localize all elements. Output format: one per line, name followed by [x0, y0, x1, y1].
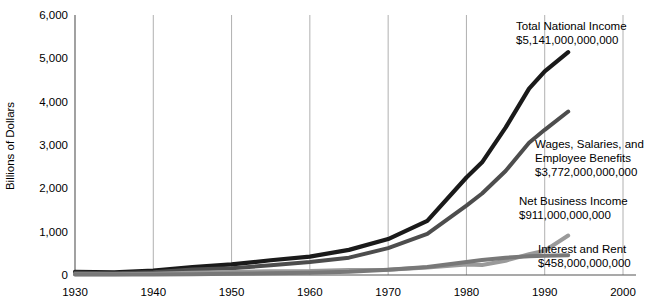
y-tick-label-1000: 1,000: [39, 226, 68, 238]
y-tick-label-3000: 3,000: [39, 139, 68, 151]
y-tick-label-4000: 4,000: [39, 96, 68, 108]
annotation-2-line-0: Net Business Income: [519, 195, 628, 207]
x-axis-tick-labels: 19301940195019601970198019902000: [62, 286, 636, 298]
y-axis-tick-labels: 01,0002,0003,0004,0005,0006,000: [39, 9, 68, 281]
annotation-0-line-1: $5,141,000,000,000: [516, 34, 618, 46]
y-tick-label-0: 0: [62, 269, 68, 281]
y-tick-label-6000: 6,000: [39, 9, 68, 21]
annotation-0-line-0: Total National Income: [516, 20, 627, 32]
annotation-3-line-0: Interest and Rent: [538, 243, 627, 255]
series-line-1: [75, 112, 568, 274]
annotation-2-line-1: $911,000,000,000: [519, 209, 611, 221]
chart-canvas: 01,0002,0003,0004,0005,0006,000 19301940…: [0, 0, 648, 303]
series-line-0: [75, 52, 568, 272]
x-tick-label-1980: 1980: [454, 286, 480, 298]
series-lines: [75, 52, 568, 274]
y-axis-title: Billions of Dollars: [4, 102, 16, 190]
annotation-3-line-1: $458,000,000,000: [538, 257, 631, 269]
series-annotations: Total National Income$5,141,000,000,000W…: [516, 20, 644, 269]
x-tick-label-1960: 1960: [297, 286, 323, 298]
x-tick-label-1940: 1940: [140, 286, 166, 298]
x-tick-label-1950: 1950: [219, 286, 245, 298]
annotation-1-line-0: Wages, Salaries, and: [535, 138, 644, 150]
y-tick-label-5000: 5,000: [39, 52, 68, 64]
x-tick-label-1930: 1930: [62, 286, 88, 298]
annotation-1-line-2: $3,772,000,000,000: [535, 166, 637, 178]
y-tick-label-2000: 2,000: [39, 182, 68, 194]
x-tick-label-1970: 1970: [375, 286, 401, 298]
x-tick-label-1990: 1990: [532, 286, 558, 298]
annotation-1-line-1: Employee Benefits: [535, 152, 631, 164]
national-income-line-chart: 01,0002,0003,0004,0005,0006,000 19301940…: [0, 0, 648, 303]
x-tick-label-2000: 2000: [610, 286, 636, 298]
